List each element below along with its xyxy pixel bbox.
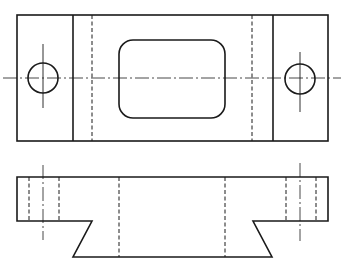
front-view-outline bbox=[17, 177, 328, 257]
front-view bbox=[17, 163, 328, 257]
center-slot bbox=[119, 40, 225, 118]
engineering-drawing bbox=[0, 0, 344, 273]
top-view-outline bbox=[17, 15, 328, 141]
top-view bbox=[3, 15, 341, 141]
